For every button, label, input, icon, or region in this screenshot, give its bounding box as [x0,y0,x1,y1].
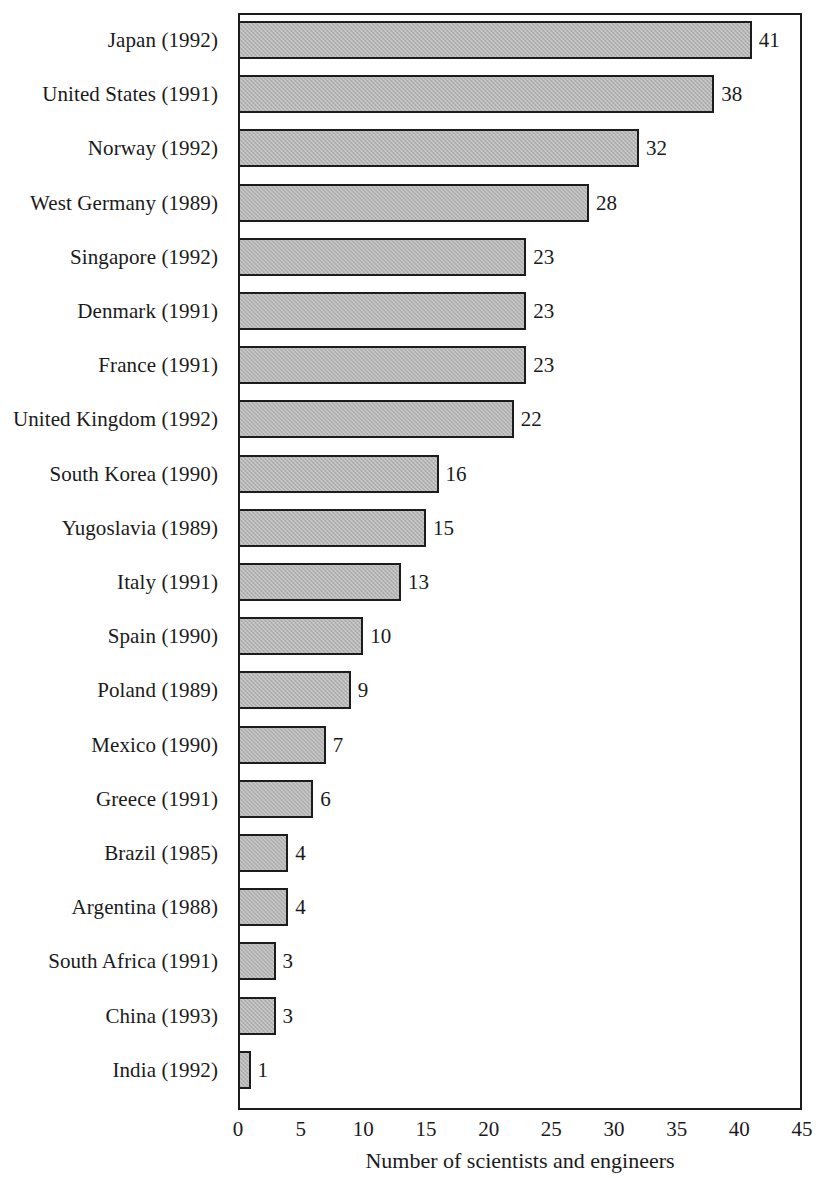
bar [238,997,276,1035]
bar-row: Denmark (1991)23 [0,291,826,331]
bar-value-label: 32 [646,128,667,168]
bar [238,400,514,438]
bar-value-label: 1 [258,1050,269,1090]
bar-value-label: 22 [521,399,542,439]
x-tick-label: 15 [416,1112,437,1146]
bar-row: Argentina (1988)4 [0,887,826,927]
category-label: Poland (1989) [0,670,218,710]
x-tick-label: 10 [353,1112,374,1146]
bar [238,455,439,493]
bar-value-label: 10 [370,616,391,656]
x-tick-label: 20 [478,1112,499,1146]
bar [238,834,288,872]
x-tick-label: 45 [792,1112,813,1146]
bar-value-label: 41 [759,20,780,60]
bar-value-label: 13 [408,562,429,602]
bar [238,21,752,59]
bar-row: Spain (1990)10 [0,616,826,656]
x-axis-tick-labels: 051015202530354045 [0,1112,826,1146]
bar-row: Singapore (1992)23 [0,237,826,277]
bar-value-label: 3 [283,941,294,981]
bar [238,671,351,709]
bar-row: Mexico (1990)7 [0,725,826,765]
bar-row: Italy (1991)13 [0,562,826,602]
bar-value-label: 4 [295,887,306,927]
chart-page: Japan (1992)41United States (1991)38Norw… [0,0,826,1178]
bar-value-label: 3 [283,996,294,1036]
bar-value-label: 4 [295,833,306,873]
category-label: Denmark (1991) [0,291,218,331]
category-label: West Germany (1989) [0,183,218,223]
bar-value-label: 6 [320,779,331,819]
x-tick-label: 35 [666,1112,687,1146]
bar-row: Yugoslavia (1989)15 [0,508,826,548]
x-tick-label: 0 [233,1112,244,1146]
bar-row: West Germany (1989)28 [0,183,826,223]
bar [238,346,526,384]
bar-row: Brazil (1985)4 [0,833,826,873]
bar-row: United Kingdom (1992)22 [0,399,826,439]
bar [238,292,526,330]
bar-value-label: 28 [596,183,617,223]
category-label: Argentina (1988) [0,887,218,927]
bar [238,129,639,167]
bar-row: Norway (1992)32 [0,128,826,168]
bar [238,888,288,926]
x-axis-title: Number of scientists and engineers [238,1146,802,1176]
category-label: Brazil (1985) [0,833,218,873]
bar [238,942,276,980]
bar [238,617,363,655]
bar [238,1051,251,1089]
bar-value-label: 23 [533,345,554,385]
bar-row: Greece (1991)6 [0,779,826,819]
category-label: Japan (1992) [0,20,218,60]
category-label: South Africa (1991) [0,941,218,981]
bar-value-label: 23 [533,291,554,331]
bar-row: China (1993)3 [0,996,826,1036]
bar-row: France (1991)23 [0,345,826,385]
bar-value-label: 7 [333,725,344,765]
bar-row: India (1992)1 [0,1050,826,1090]
bar [238,75,714,113]
bar [238,509,426,547]
category-label: Norway (1992) [0,128,218,168]
category-label: Mexico (1990) [0,725,218,765]
bar-value-label: 9 [358,670,369,710]
category-label: Greece (1991) [0,779,218,819]
category-label: Singapore (1992) [0,237,218,277]
bar-value-label: 15 [433,508,454,548]
category-label: China (1993) [0,996,218,1036]
bar-value-label: 23 [533,237,554,277]
category-label: Yugoslavia (1989) [0,508,218,548]
bar [238,780,313,818]
bar-value-label: 38 [721,74,742,114]
bar [238,563,401,601]
bar-row: United States (1991)38 [0,74,826,114]
bar [238,726,326,764]
category-label: Italy (1991) [0,562,218,602]
bar-row: South Korea (1990)16 [0,454,826,494]
bar [238,238,526,276]
category-label: France (1991) [0,345,218,385]
category-label: United States (1991) [0,74,218,114]
bar-row: Poland (1989)9 [0,670,826,710]
category-label: India (1992) [0,1050,218,1090]
x-tick-label: 40 [729,1112,750,1146]
x-tick-label: 30 [604,1112,625,1146]
category-label: South Korea (1990) [0,454,218,494]
bar-value-label: 16 [446,454,467,494]
bar-row: Japan (1992)41 [0,20,826,60]
bar-row: South Africa (1991)3 [0,941,826,981]
category-label: United Kingdom (1992) [0,399,218,439]
category-label: Spain (1990) [0,616,218,656]
bar [238,184,589,222]
x-tick-label: 25 [541,1112,562,1146]
x-tick-label: 5 [295,1112,306,1146]
